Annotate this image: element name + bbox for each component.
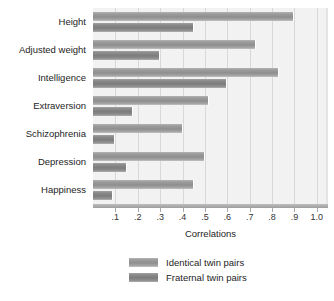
plot-inner xyxy=(93,8,328,204)
bar xyxy=(93,79,227,88)
gridline xyxy=(183,8,184,204)
x-tick-label: 1.0 xyxy=(311,212,324,222)
bar xyxy=(93,180,194,189)
legend-label-identical: Identical twin pairs xyxy=(166,257,244,268)
legend-item-identical: Identical twin pairs xyxy=(129,256,247,269)
bar xyxy=(93,40,256,49)
legend-label-fraternal: Fraternal twin pairs xyxy=(166,272,247,283)
gridline xyxy=(272,8,273,204)
gridline xyxy=(317,8,318,204)
x-axis-title: Correlations xyxy=(93,228,328,239)
gridline xyxy=(227,8,228,204)
bar xyxy=(93,107,133,116)
x-tick-label: .8 xyxy=(268,212,276,222)
x-tick-label: .5 xyxy=(201,212,209,222)
gridline xyxy=(160,8,161,204)
category-label: Schizophrenia xyxy=(0,129,86,139)
bar xyxy=(93,124,183,133)
bar xyxy=(93,96,209,105)
bar xyxy=(93,163,127,172)
gridline xyxy=(294,8,295,204)
bar xyxy=(93,191,113,200)
x-tick-label: .2 xyxy=(134,212,142,222)
twin-correlation-bar-chart: HeightAdjusted weightIntelligenceExtrave… xyxy=(0,0,334,301)
category-label: Adjusted weight xyxy=(0,45,86,55)
legend-swatch-fraternal-icon xyxy=(129,273,159,282)
legend-swatch-identical-icon xyxy=(129,258,159,267)
bar xyxy=(93,51,160,60)
gridline xyxy=(138,8,139,204)
bar xyxy=(93,23,194,32)
x-axis-baseline xyxy=(93,204,328,208)
bar xyxy=(93,135,115,144)
category-label: Intelligence xyxy=(0,73,86,83)
x-tick-label: .1 xyxy=(112,212,120,222)
x-tick-label: .7 xyxy=(246,212,254,222)
gridline xyxy=(115,8,116,204)
gridline xyxy=(205,8,206,204)
bar xyxy=(93,152,205,161)
category-label: Extraversion xyxy=(0,101,86,111)
chart-legend: Identical twin pairs Fraternal twin pair… xyxy=(129,256,247,286)
category-label: Happiness xyxy=(0,185,86,195)
gridline xyxy=(250,8,251,204)
bar xyxy=(93,68,279,77)
category-axis-labels: HeightAdjusted weightIntelligenceExtrave… xyxy=(0,8,86,204)
plot-area xyxy=(93,8,328,204)
x-tick-label: .6 xyxy=(224,212,232,222)
x-tick-label: .3 xyxy=(156,212,164,222)
bar xyxy=(93,12,294,21)
plot-right-edge xyxy=(326,8,328,204)
x-tick-label: .4 xyxy=(179,212,187,222)
category-label: Depression xyxy=(0,157,86,167)
x-tick-label: .9 xyxy=(291,212,299,222)
legend-item-fraternal: Fraternal twin pairs xyxy=(129,271,247,284)
category-label: Height xyxy=(0,17,86,27)
